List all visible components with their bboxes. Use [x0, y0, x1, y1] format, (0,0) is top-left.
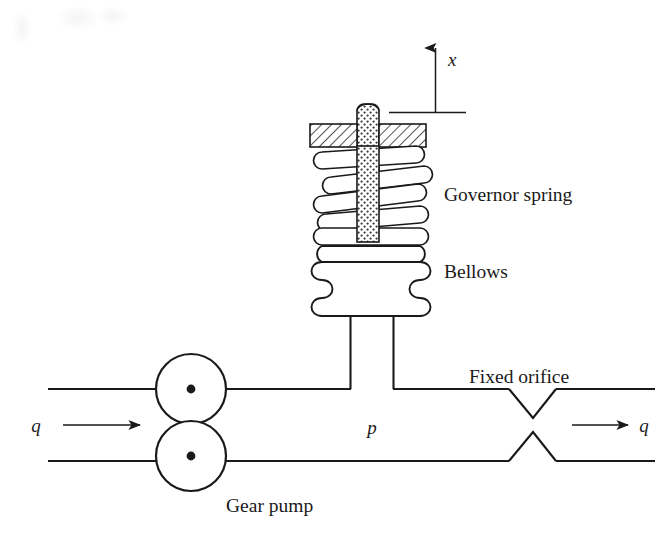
- stem-rod-through-spring: [357, 146, 379, 242]
- figure-root: x Governor spring Bellows Fixed orifice …: [0, 0, 663, 547]
- governor-spring-group: [314, 146, 433, 245]
- label-gear-pump: Gear pump: [226, 495, 313, 516]
- label-governor-spring: Governor spring: [444, 184, 573, 205]
- orifice-notch-lower: [509, 432, 556, 461]
- gear-pump-upper-shaft-dot: [187, 385, 196, 394]
- bellows-top-cap: [317, 246, 425, 262]
- pipe-lower-wall-group: [48, 432, 655, 461]
- label-bellows: Bellows: [444, 261, 508, 282]
- bellows-group: [312, 246, 431, 316]
- label-flow-in-q: q: [31, 415, 41, 436]
- label-pressure-p: p: [365, 417, 377, 438]
- orifice-notch-upper: [509, 389, 556, 418]
- mounting-plate-left: [310, 124, 357, 147]
- pipe-upper-wall-group: [48, 389, 655, 418]
- bellows-wall-left: [312, 262, 333, 316]
- label-fixed-orifice: Fixed orifice: [469, 366, 569, 387]
- gear-pump-lower-shaft-dot: [187, 452, 196, 461]
- governor-schematic-drawing: x Governor spring Bellows Fixed orifice …: [0, 0, 663, 547]
- pressure-tap-tubes-group: [351, 316, 394, 389]
- gear-pump-group: [156, 354, 226, 491]
- bellows-wall-right: [410, 262, 431, 316]
- label-flow-out-q: q: [639, 415, 649, 436]
- mounting-plate-right: [379, 124, 426, 147]
- label-displacement-x: x: [447, 49, 457, 70]
